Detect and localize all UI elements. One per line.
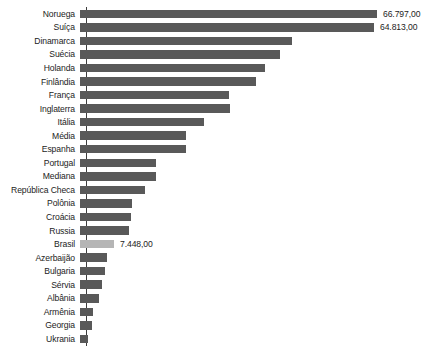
bar-track [80, 61, 447, 75]
bar-rows-container: Noruega66.797,00Suíça64.813,00DinamarcaS… [0, 7, 447, 346]
category-label: Finlândia [0, 77, 80, 87]
bar-row: Russia [0, 224, 447, 238]
bar-track [80, 88, 447, 102]
category-label: Croácia [0, 212, 80, 222]
bar-row: Espanha [0, 142, 447, 156]
bar-row: França [0, 88, 447, 102]
bar [80, 131, 186, 140]
bar-row: Mediana [0, 170, 447, 184]
bar-row: Georgia [0, 319, 447, 333]
bar-track [80, 142, 447, 156]
category-label: Média [0, 131, 80, 141]
bar [80, 104, 230, 113]
bar-value-label: 7.448,00 [120, 239, 153, 249]
bar-chart: Noruega66.797,00Suíça64.813,00DinamarcaS… [0, 0, 447, 354]
bar-track [80, 291, 447, 305]
bar-track [80, 183, 447, 197]
bar-track [80, 75, 447, 89]
bar-row: Portugal [0, 156, 447, 170]
bar [80, 91, 229, 100]
category-label: Espanha [0, 144, 80, 154]
bar-track [80, 48, 447, 62]
bar-value-label: 66.797,00 [383, 9, 420, 19]
bar-row: Ukrania [0, 332, 447, 346]
bar [80, 37, 292, 46]
bar-track [80, 197, 447, 211]
bar-row: Brasil7.448,00 [0, 237, 447, 251]
bar-row: República Checa [0, 183, 447, 197]
category-label: Portugal [0, 158, 80, 168]
category-label: Sérvia [0, 280, 80, 290]
bar-row: Finlândia [0, 75, 447, 89]
bar-track [80, 319, 447, 333]
bar-track [80, 264, 447, 278]
category-label: Bulgaria [0, 266, 80, 276]
bar-track [80, 210, 447, 224]
bar-track [80, 305, 447, 319]
bar [80, 145, 186, 154]
bar [80, 335, 88, 344]
bar-row: Suíça64.813,00 [0, 21, 447, 35]
bar-track: 7.448,00 [80, 237, 447, 251]
bar-row: Bulgaria [0, 264, 447, 278]
bar [80, 321, 92, 330]
category-label: Noruega [0, 9, 80, 19]
bar [80, 118, 204, 127]
category-label: Polônia [0, 198, 80, 208]
bar-row: Suécia [0, 48, 447, 62]
bar [80, 294, 99, 303]
category-label: Inglaterra [0, 104, 80, 114]
bar [80, 64, 265, 73]
bar [80, 50, 280, 59]
bar [80, 172, 156, 181]
bar-row: Dinamarca [0, 34, 447, 48]
bar [80, 267, 105, 276]
category-label: Albânia [0, 293, 80, 303]
bar-track [80, 156, 447, 170]
bar-row: Polônia [0, 197, 447, 211]
bar-row: Armênia [0, 305, 447, 319]
bar-track [80, 251, 447, 265]
bar-highlighted [80, 240, 114, 249]
bar-track [80, 278, 447, 292]
bar-track [80, 115, 447, 129]
bar [80, 226, 129, 235]
bar-track [80, 102, 447, 116]
category-label: Georgia [0, 320, 80, 330]
category-label: Suécia [0, 49, 80, 59]
category-label: Itália [0, 117, 80, 127]
bar [80, 23, 374, 32]
bar-track: 66.797,00 [80, 7, 447, 21]
bar-track [80, 224, 447, 238]
bar-row: Sérvia [0, 278, 447, 292]
bar [80, 186, 145, 195]
category-label: Mediana [0, 171, 80, 181]
bar [80, 10, 377, 19]
bar-track: 64.813,00 [80, 21, 447, 35]
bar-row: Noruega66.797,00 [0, 7, 447, 21]
bar-row: Inglaterra [0, 102, 447, 116]
bar-track [80, 34, 447, 48]
bar-value-label: 64.813,00 [380, 22, 417, 32]
bar-row: Azerbaijão [0, 251, 447, 265]
category-label: França [0, 90, 80, 100]
bar [80, 308, 93, 317]
bar [80, 280, 102, 289]
bar [80, 253, 107, 262]
bar-track [80, 129, 447, 143]
bar-row: Albânia [0, 291, 447, 305]
category-label: Holanda [0, 63, 80, 73]
bar-row: Holanda [0, 61, 447, 75]
bar-row: Itália [0, 115, 447, 129]
bar-row: Croácia [0, 210, 447, 224]
bar-row: Média [0, 129, 447, 143]
category-label: Ukrania [0, 334, 80, 344]
category-label: Armênia [0, 307, 80, 317]
bar-track [80, 170, 447, 184]
bar [80, 199, 132, 208]
bar [80, 77, 256, 86]
category-label: Dinamarca [0, 36, 80, 46]
category-label: Brasil [0, 239, 80, 249]
category-label: Suíça [0, 22, 80, 32]
category-label: Russia [0, 226, 80, 236]
